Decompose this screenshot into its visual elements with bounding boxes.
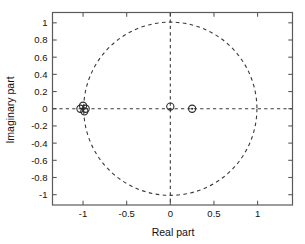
y-tick-label: 0.2 [34,86,47,97]
y-tick-label: 0.4 [34,69,47,80]
y-tick-label: -0.8 [31,172,47,183]
pole-marker [169,108,171,110]
x-tick-label: -1 [79,208,87,219]
pole-zero-plot-figure: -1-0.500.51 10.80.60.40.20-0.2-0.4-0.6-0… [0,0,305,244]
plot-canvas: -1-0.500.51 10.80.60.40.20-0.2-0.4-0.6-0… [0,0,305,244]
y-tick-label: -0.6 [31,155,47,166]
y-tick-label: -0.4 [31,138,47,149]
x-tick-label: 0 [168,208,173,219]
y-tick-label: -1 [39,189,47,200]
y-tick-label: 0.6 [34,52,47,63]
y-tick-label: 0 [42,103,47,114]
x-axis-label: Real part [152,226,195,238]
pole-marker [191,108,193,110]
x-tick-label: -0.5 [118,208,134,219]
x-tick-label: 0.5 [207,208,220,219]
pole-marker [82,108,84,110]
y-axis-label: Imaginary part [4,76,16,143]
x-tick-label: 1 [255,208,260,219]
y-tick-label: -0.2 [31,120,47,131]
y-tick-label: 1 [42,17,47,28]
y-tick-label: 0.8 [34,34,47,45]
